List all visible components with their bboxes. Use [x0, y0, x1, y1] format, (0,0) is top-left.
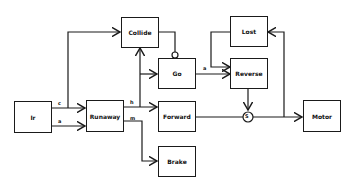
edge-label-a: a	[58, 118, 61, 124]
node-motor: Motor	[303, 100, 341, 132]
edge-label-go-reverse: a	[203, 65, 206, 71]
node-lost: Lost	[230, 16, 268, 47]
edge-label-c: c	[58, 100, 61, 106]
suppressor-label: S	[245, 113, 249, 119]
node-forward: Forward	[158, 101, 196, 132]
node-reverse: Reverse	[230, 58, 268, 89]
node-brake: Brake	[158, 146, 196, 177]
node-go: Go	[158, 58, 196, 89]
edge-label-h: h	[130, 99, 134, 105]
node-runaway: Runaway	[86, 100, 124, 132]
edge-label-m: m	[130, 115, 135, 121]
node-collide: Collide	[121, 17, 159, 48]
node-ir: Ir	[14, 101, 52, 133]
